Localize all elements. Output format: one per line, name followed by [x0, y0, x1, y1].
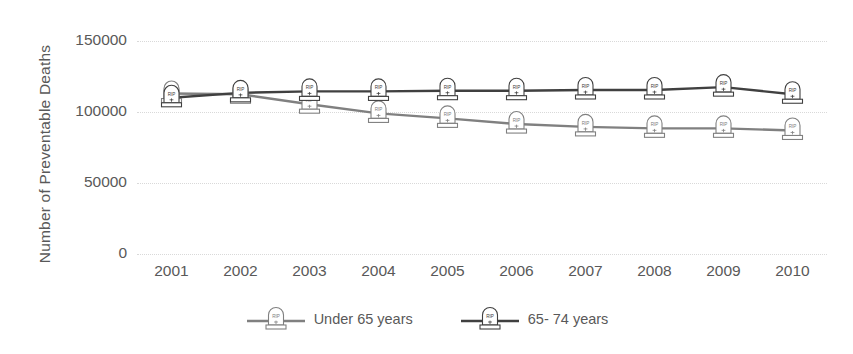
- legend-item[interactable]: RIP65- 74 years: [459, 306, 609, 332]
- legend-label: Under 65 years: [314, 311, 413, 327]
- tombstone-icon: RIP: [576, 114, 596, 136]
- svg-text:RIP: RIP: [651, 122, 659, 127]
- tombstone-icon: RIP: [231, 80, 251, 102]
- svg-text:RIP: RIP: [444, 112, 452, 117]
- tombstone-icon: RIP: [266, 308, 286, 330]
- y-axis-tick-label: 50000: [49, 173, 127, 191]
- svg-text:RIP: RIP: [444, 85, 452, 90]
- line-chart: Number of Preventable Deaths 05000010000…: [0, 0, 853, 354]
- tombstone-icon: RIP: [714, 75, 734, 97]
- tombstone-icon: RIP: [507, 78, 527, 100]
- series-line: [172, 87, 793, 98]
- x-axis-tick-label: 2005: [413, 262, 483, 280]
- svg-text:RIP: RIP: [582, 121, 590, 126]
- svg-text:RIP: RIP: [375, 107, 383, 112]
- y-axis-tick-label: 100000: [49, 102, 127, 120]
- legend-key: RIP: [459, 306, 521, 332]
- tombstone-icon: RIP: [714, 116, 734, 138]
- tombstone-icon: RIP: [783, 118, 803, 139]
- tombstone-icon: RIP: [300, 79, 320, 101]
- chart-legend: RIPUnder 65 yearsRIP65- 74 years: [0, 306, 853, 332]
- legend-item[interactable]: RIPUnder 65 years: [245, 306, 413, 332]
- svg-text:RIP: RIP: [789, 88, 797, 93]
- svg-text:RIP: RIP: [720, 81, 728, 86]
- plot-area: 050000100000150000 RIPRIPRIPRIPRIPRIPRIP…: [137, 41, 827, 254]
- svg-text:RIP: RIP: [272, 314, 280, 319]
- svg-text:RIP: RIP: [651, 84, 659, 89]
- svg-text:RIP: RIP: [789, 124, 797, 129]
- tombstone-icon: RIP: [369, 79, 389, 101]
- svg-text:RIP: RIP: [375, 85, 383, 90]
- tombstone-icon: RIP: [645, 77, 665, 99]
- svg-text:RIP: RIP: [720, 122, 728, 127]
- svg-text:RIP: RIP: [486, 314, 494, 319]
- x-axis-tick-label: 2009: [689, 262, 759, 280]
- svg-text:RIP: RIP: [168, 92, 176, 97]
- svg-text:RIP: RIP: [513, 85, 521, 90]
- tombstone-icon: RIP: [438, 78, 458, 100]
- y-axis-tick-label: 150000: [49, 31, 127, 49]
- x-axis-tick-label: 2007: [551, 262, 621, 280]
- x-axis-tick-label: 2010: [758, 262, 828, 280]
- tombstone-icon: RIP: [369, 101, 389, 123]
- tombstone-icon: RIP: [480, 308, 500, 330]
- svg-text:RIP: RIP: [237, 87, 245, 92]
- x-axis-tick-label: 2008: [620, 262, 690, 280]
- svg-text:RIP: RIP: [582, 84, 590, 89]
- x-axis-tick-label: 2006: [482, 262, 552, 280]
- legend-label: 65- 74 years: [528, 311, 609, 327]
- tombstone-icon: RIP: [576, 77, 596, 99]
- x-axis-tick-label: 2003: [275, 262, 345, 280]
- tombstone-icon: RIP: [438, 106, 458, 128]
- series-line: [172, 94, 793, 131]
- svg-text:RIP: RIP: [513, 118, 521, 123]
- tombstone-icon: RIP: [783, 82, 803, 104]
- x-axis-tick-label: 2001: [137, 262, 207, 280]
- svg-text:RIP: RIP: [306, 85, 314, 90]
- y-axis-tick-label: 0: [49, 244, 127, 262]
- legend-key: RIP: [245, 306, 307, 332]
- x-axis-tick-label: 2002: [206, 262, 276, 280]
- series-layer: RIPRIPRIPRIPRIPRIPRIPRIPRIPRIPRIPRIPRIPR…: [137, 41, 827, 254]
- x-axis-tick-label: 2004: [344, 262, 414, 280]
- tombstone-icon: RIP: [645, 116, 665, 138]
- y-axis-title: Number of Preventable Deaths: [36, 34, 54, 274]
- x-axis-ticks: 2001200220032004200520062007200820092010: [137, 262, 827, 286]
- tombstone-icon: RIP: [507, 112, 527, 134]
- gridline: [137, 254, 827, 255]
